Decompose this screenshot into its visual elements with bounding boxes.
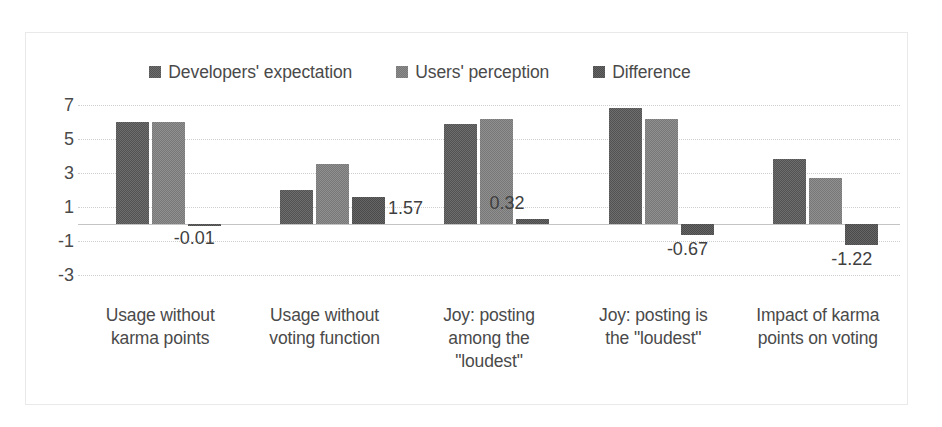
bar-dif[interactable] xyxy=(516,219,549,224)
y-tick-label: -3 xyxy=(58,266,74,284)
bar-group: -0.01 xyxy=(78,105,242,275)
data-label: -1.22 xyxy=(831,250,872,268)
y-tick-label: 1 xyxy=(64,198,74,216)
chart-plot-area: -0.011.570.32-0.67-1.22 xyxy=(78,105,900,275)
legend-swatch-icon-difference xyxy=(593,66,605,78)
bar-group: 0.32 xyxy=(407,105,571,275)
bar-usr[interactable] xyxy=(152,122,185,224)
bar-group: -1.22 xyxy=(736,105,900,275)
y-axis: 7531-1-3 xyxy=(38,105,74,275)
legend-swatch-icon-developers xyxy=(149,66,161,78)
category-label: Impact of karmapoints on voting xyxy=(736,304,900,350)
legend-swatch-icon-users xyxy=(396,66,408,78)
legend-item-difference[interactable]: Difference xyxy=(593,62,690,83)
category-label-line: Joy: posting is xyxy=(571,304,735,327)
grouped-bar-chart: Developers' expectation Users' perceptio… xyxy=(0,0,942,427)
bar-usr[interactable] xyxy=(645,119,678,224)
bar-usr[interactable] xyxy=(809,178,842,224)
y-tick-label: 5 xyxy=(64,130,74,148)
bar-dev[interactable] xyxy=(444,124,477,224)
category-label: Joy: posting isthe "loudest" xyxy=(571,304,735,350)
gridline xyxy=(78,275,900,276)
legend-label-users: Users' perception xyxy=(415,62,549,83)
chart-legend: Developers' expectation Users' perceptio… xyxy=(25,58,815,86)
bar-dev[interactable] xyxy=(116,122,149,224)
category-label-line: the "loudest" xyxy=(571,327,735,350)
data-label: -0.01 xyxy=(174,229,215,247)
bar-group: -0.67 xyxy=(571,105,735,275)
category-label-line: among the xyxy=(407,327,571,350)
legend-label-developers: Developers' expectation xyxy=(168,62,352,83)
category-label-line: Impact of karma xyxy=(736,304,900,327)
bar-dif[interactable] xyxy=(352,197,385,224)
x-axis: Usage withoutkarma pointsUsage withoutvo… xyxy=(78,304,900,394)
y-tick-label: 3 xyxy=(64,164,74,182)
category-label-line: points on voting xyxy=(736,327,900,350)
category-label: Usage withoutkarma points xyxy=(78,304,242,350)
bar-dev[interactable] xyxy=(773,159,806,224)
category-label-line: "loudest" xyxy=(407,350,571,373)
y-tick-label: 7 xyxy=(64,96,74,114)
data-label: 0.32 xyxy=(489,194,524,212)
data-label: -0.67 xyxy=(667,240,708,258)
legend-item-developers-expectation[interactable]: Developers' expectation xyxy=(149,62,352,83)
bar-usr[interactable] xyxy=(316,164,349,224)
legend-item-users-perception[interactable]: Users' perception xyxy=(396,62,549,83)
bar-dif[interactable] xyxy=(845,224,878,245)
category-label: Joy: postingamong the"loudest" xyxy=(407,304,571,373)
y-tick-label: -1 xyxy=(58,232,74,250)
bar-group: 1.57 xyxy=(242,105,406,275)
category-label-line: Usage without xyxy=(242,304,406,327)
category-label-line: karma points xyxy=(78,327,242,350)
bar-dev[interactable] xyxy=(280,190,313,224)
category-label-line: voting function xyxy=(242,327,406,350)
legend-label-difference: Difference xyxy=(612,62,690,83)
bar-dev[interactable] xyxy=(609,108,642,224)
bar-dif[interactable] xyxy=(188,224,221,226)
category-label-line: Joy: posting xyxy=(407,304,571,327)
category-label: Usage withoutvoting function xyxy=(242,304,406,350)
category-label-line: Usage without xyxy=(78,304,242,327)
bar-dif[interactable] xyxy=(681,224,714,235)
